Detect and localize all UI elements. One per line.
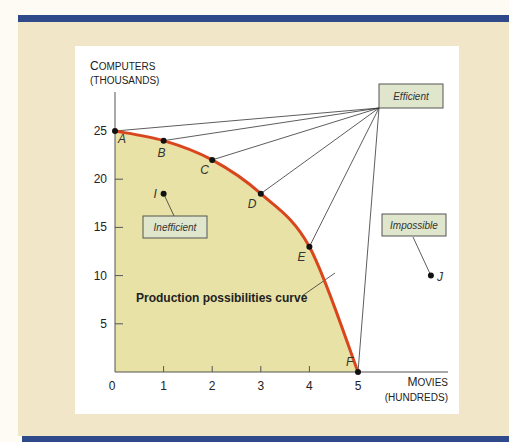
x-axis-title: MOVIES bbox=[407, 375, 448, 389]
x-tick-label: 5 bbox=[355, 379, 362, 393]
y-tick-label: 15 bbox=[94, 220, 108, 234]
feasible-region bbox=[115, 131, 358, 372]
y-tick-label: 20 bbox=[94, 172, 108, 186]
x-tick-label: 1 bbox=[160, 379, 167, 393]
point-c bbox=[209, 157, 215, 163]
x-tick-label: 3 bbox=[257, 379, 264, 393]
point-i bbox=[161, 191, 167, 197]
y-axis-title: COMPUTERS bbox=[90, 59, 156, 73]
impossible-leader-line bbox=[413, 237, 431, 276]
efficient-leader-line bbox=[212, 108, 379, 160]
efficient-leader-line bbox=[358, 108, 379, 372]
y-tick-label: 25 bbox=[94, 124, 108, 138]
x-axis-subtitle: (HUNDREDS) bbox=[385, 392, 448, 403]
point-label-c: C bbox=[200, 163, 209, 177]
point-b bbox=[161, 138, 167, 144]
point-label-j: J bbox=[436, 270, 444, 284]
inefficient-callout-text: Inefficient bbox=[154, 222, 198, 233]
point-e bbox=[306, 244, 312, 250]
y-tick-label: 5 bbox=[100, 317, 107, 331]
point-f bbox=[355, 369, 361, 375]
y-axis-subtitle: (THOUSANDS) bbox=[90, 75, 159, 86]
x-tick-label: 2 bbox=[209, 379, 216, 393]
point-label-a: A bbox=[117, 132, 126, 146]
point-label-d: D bbox=[248, 197, 257, 211]
point-label-b: B bbox=[158, 146, 166, 160]
y-tick-label: 10 bbox=[94, 269, 108, 283]
x-tick-label: 4 bbox=[306, 379, 313, 393]
curve-label: Production possibilities curve bbox=[136, 291, 308, 305]
point-label-e: E bbox=[297, 250, 306, 264]
point-j bbox=[428, 273, 434, 279]
efficient-callout-text: Efficient bbox=[393, 91, 430, 102]
impossible-callout-text: Impossible bbox=[390, 220, 438, 231]
x-tick-label: 0 bbox=[109, 379, 116, 393]
efficient-leader-line bbox=[115, 108, 379, 131]
point-label-f: F bbox=[346, 355, 354, 369]
efficient-leader-line bbox=[309, 108, 379, 247]
efficient-leader-line bbox=[261, 108, 379, 194]
point-d bbox=[258, 191, 264, 197]
ppf-chart: 012345510152025 ABCDEFIJ COMPUTERS (THOU… bbox=[0, 0, 509, 442]
